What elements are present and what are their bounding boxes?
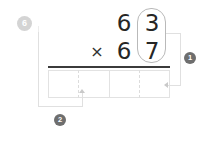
callout-2-connector-riser <box>82 92 83 107</box>
multiplicand-tens-digit: 6 <box>113 12 135 35</box>
worksheet-canvas: 6 6 3 × 6 7 1 2 <box>0 0 207 141</box>
answer-rule-divider <box>48 66 170 68</box>
callout-2-connector-vertical <box>38 32 39 107</box>
callout-2-connector-bottom <box>38 106 83 107</box>
step-number-badge: 6 <box>17 16 32 31</box>
multiplier-tens-digit: 6 <box>113 40 135 63</box>
answer-cell[interactable] <box>48 70 78 98</box>
answer-boxes-row <box>48 70 170 98</box>
callout-2-arrow-icon <box>79 89 85 93</box>
answer-cell[interactable] <box>109 70 139 98</box>
callout-1-connector-top <box>166 33 181 34</box>
callout-2-badge: 2 <box>54 114 66 126</box>
callout-1-connector-bottom <box>168 85 181 86</box>
multiplication-operator-icon: × <box>88 44 106 60</box>
ones-column-highlight-capsule <box>137 8 166 63</box>
callout-1-connector-vertical <box>180 33 181 85</box>
callout-1-arrow-icon <box>164 82 168 88</box>
callout-1-badge: 1 <box>184 52 196 64</box>
